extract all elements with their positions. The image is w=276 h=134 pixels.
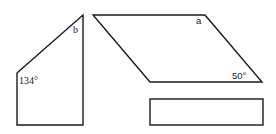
geometry-diagram: b 134° a 50°: [0, 0, 276, 134]
angle-label-134: 134°: [19, 75, 38, 86]
parallelogram-shape: a 50°: [93, 15, 262, 82]
angle-label-b: b: [73, 24, 78, 35]
angle-label-50: 50°: [232, 70, 247, 81]
rectangle-shape: [150, 99, 263, 125]
trapezoid-shape: b 134°: [17, 15, 83, 125]
rectangle-outline: [150, 99, 263, 125]
angle-label-a: a: [196, 15, 202, 26]
